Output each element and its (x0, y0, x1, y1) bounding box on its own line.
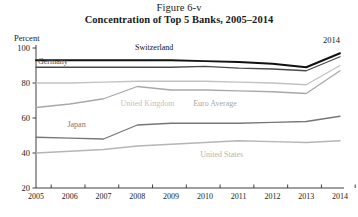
series-label-germany: Germany (38, 57, 68, 66)
series-label-japan: Japan (67, 120, 85, 129)
data-series-group (36, 53, 340, 153)
series-line-euro-average (36, 71, 340, 108)
figure-container: Figure 6-v Concentration of Top 5 Banks,… (0, 0, 358, 217)
series-label-switzerland: Switzerland (135, 43, 173, 52)
x-tick-label: 2008 (129, 192, 145, 201)
x-tick-label: 2010 (197, 192, 213, 201)
series-line-united-states (36, 141, 340, 153)
x-tick-label: 2006 (62, 192, 78, 201)
y-tick-label: 40 (22, 148, 31, 158)
y-tick-label: 80 (22, 78, 31, 88)
x-axis-ticks: 2005200620072008200920102011201220132014 (28, 185, 355, 202)
series-line-switzerland (36, 53, 340, 67)
x-tick-label: 2014 (332, 192, 348, 201)
series-label-united-states: United States (200, 150, 243, 159)
line-chart-plot: 20406080100 2005200620072008200920102011… (0, 0, 358, 217)
x-tick-label: 2013 (298, 192, 314, 201)
annotation-2014: 2014 (323, 35, 341, 45)
y-tick-label: 60 (22, 113, 31, 123)
x-tick-label: 2005 (28, 192, 44, 201)
series-line-united-kingdom (36, 66, 340, 85)
series-line-germany (36, 57, 340, 71)
y-axis-ticks: 20406080100 (17, 43, 36, 193)
x-tick-label: 2011 (231, 192, 247, 201)
x-tick-label: 2009 (163, 192, 179, 201)
y-tick-label: 100 (17, 43, 30, 53)
x-tick-label: 2007 (96, 192, 112, 201)
x-tick-label: 2012 (264, 192, 280, 201)
series-label-euro-average: Euro Average (193, 99, 237, 108)
series-label-united-kingdom: United Kingdom (120, 99, 175, 108)
